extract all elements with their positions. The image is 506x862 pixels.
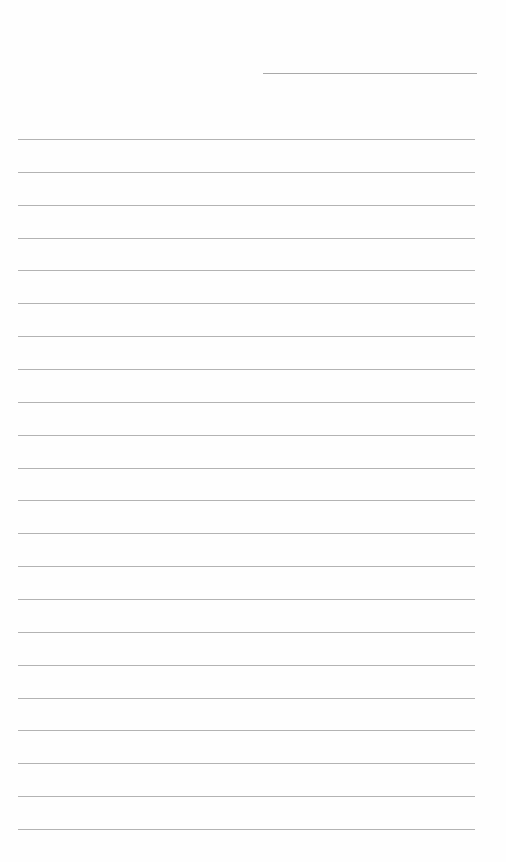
ruled-line <box>18 599 475 600</box>
ruled-line <box>18 402 475 403</box>
ruled-line <box>18 796 475 797</box>
ruled-line <box>18 139 475 140</box>
ruled-line <box>18 632 475 633</box>
ruled-line <box>18 533 475 534</box>
ruled-line <box>18 468 475 469</box>
ruled-line <box>18 763 475 764</box>
ruled-line <box>18 829 475 830</box>
ruled-line <box>18 665 475 666</box>
ruled-line <box>18 205 475 206</box>
ruled-line <box>18 435 475 436</box>
ruled-line <box>18 270 475 271</box>
lined-paper-page <box>0 0 506 862</box>
ruled-line <box>18 566 475 567</box>
ruled-line <box>18 172 475 173</box>
ruled-lines <box>0 0 506 862</box>
ruled-line <box>18 303 475 304</box>
ruled-line <box>18 238 475 239</box>
ruled-line <box>18 698 475 699</box>
ruled-line <box>18 730 475 731</box>
ruled-line <box>18 369 475 370</box>
ruled-line <box>18 500 475 501</box>
ruled-line <box>18 336 475 337</box>
